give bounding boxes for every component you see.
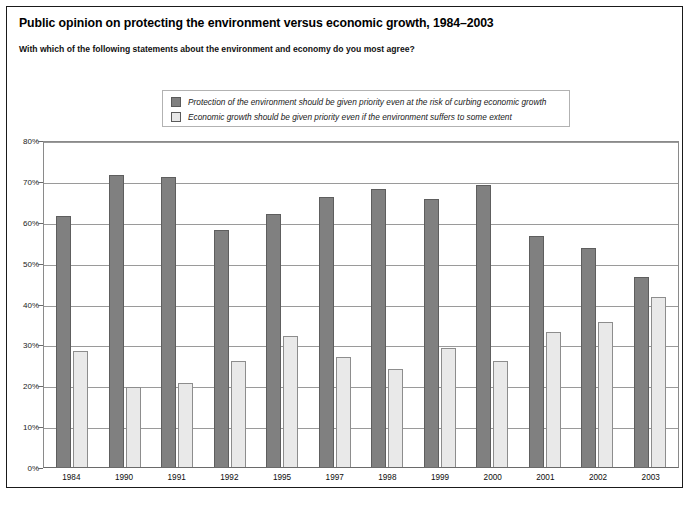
bar-group — [571, 142, 624, 467]
bar-group — [466, 142, 519, 467]
y-axis-tick-label: 0% — [9, 464, 39, 473]
bar-groups — [44, 142, 678, 467]
x-axis-tick-label: 2000 — [466, 470, 519, 486]
y-axis-tick-mark — [38, 386, 43, 387]
bar[interactable] — [56, 216, 71, 467]
bar[interactable] — [424, 199, 439, 467]
bar[interactable] — [529, 236, 544, 467]
bar[interactable] — [634, 277, 649, 467]
bar[interactable] — [493, 361, 508, 467]
y-axis-tick-mark — [38, 182, 43, 183]
bar[interactable] — [546, 332, 561, 467]
bar-group — [361, 142, 414, 467]
plot-area — [43, 141, 679, 468]
bar[interactable] — [371, 189, 386, 467]
y-axis-tick-label: 80% — [9, 137, 39, 146]
bar[interactable] — [598, 322, 613, 467]
bar-group — [414, 142, 467, 467]
y-axis-tick-label: 40% — [9, 300, 39, 309]
x-axis-tick-label: 1998 — [361, 470, 414, 486]
bar-group — [151, 142, 204, 467]
y-axis-tick-label: 20% — [9, 382, 39, 391]
bar[interactable] — [476, 185, 491, 467]
bar[interactable] — [336, 357, 351, 467]
x-axis-tick-label: 1995 — [256, 470, 309, 486]
bar[interactable] — [319, 197, 334, 467]
x-axis-tick-label: 1997 — [308, 470, 361, 486]
figure-panel: Public opinion on protecting the environ… — [6, 6, 683, 488]
bar-group — [46, 142, 99, 467]
y-axis-tick-label: 60% — [9, 218, 39, 227]
x-axis-labels: 1984199019911992199519971998199920002001… — [43, 470, 679, 486]
x-axis-tick-label: 1990 — [98, 470, 151, 486]
bar[interactable] — [441, 348, 456, 467]
bar[interactable] — [266, 214, 281, 467]
y-axis-tick-label: 10% — [9, 423, 39, 432]
x-axis-tick-label: 1992 — [203, 470, 256, 486]
y-axis-tick-mark — [38, 223, 43, 224]
bar[interactable] — [109, 175, 124, 467]
bar[interactable] — [161, 177, 176, 467]
bar-group — [256, 142, 309, 467]
bar[interactable] — [73, 351, 88, 467]
x-axis-tick-label: 2001 — [519, 470, 572, 486]
bar[interactable] — [388, 369, 403, 467]
y-axis-tick-label: 50% — [9, 259, 39, 268]
bar-group — [519, 142, 572, 467]
plot-wrapper: 80%70%60%50%40%30%20%10%0% 1984199019911… — [7, 7, 683, 488]
bar-group — [624, 142, 677, 467]
bar-group — [99, 142, 152, 467]
bar[interactable] — [214, 230, 229, 467]
x-axis-tick-label: 1984 — [45, 470, 98, 486]
bar[interactable] — [283, 336, 298, 467]
bar[interactable] — [581, 248, 596, 467]
bar[interactable] — [651, 297, 666, 467]
y-axis-tick-mark — [38, 264, 43, 265]
bar[interactable] — [231, 361, 246, 467]
bar[interactable] — [126, 387, 141, 467]
x-axis-tick-label: 1991 — [150, 470, 203, 486]
x-axis-tick-label: 2003 — [624, 470, 677, 486]
bar[interactable] — [178, 383, 193, 467]
y-axis-tick-label: 30% — [9, 341, 39, 350]
x-axis-tick-label: 2002 — [572, 470, 625, 486]
y-axis-tick-mark — [38, 141, 43, 142]
bar-group — [309, 142, 362, 467]
y-axis-tick-label: 70% — [9, 177, 39, 186]
y-axis-tick-mark — [38, 305, 43, 306]
bar-group — [204, 142, 257, 467]
y-axis-tick-mark — [38, 345, 43, 346]
x-axis-tick-label: 1999 — [414, 470, 467, 486]
y-axis-tick-mark — [38, 468, 43, 469]
y-axis-tick-mark — [38, 427, 43, 428]
